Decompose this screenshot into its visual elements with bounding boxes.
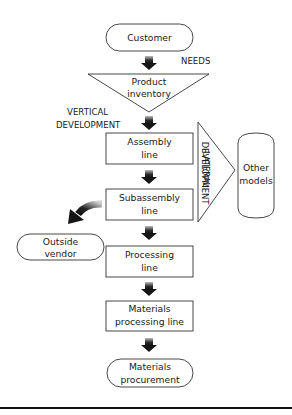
arrow-down-icon [141, 170, 157, 184]
assembly-label-line1: Assembly [106, 136, 193, 147]
product-inventory-label-line2: inventory [110, 88, 188, 99]
processing-label-line1: Processing [106, 249, 193, 260]
bottom-rule [0, 407, 292, 409]
arrow-down-icon [141, 282, 157, 296]
materials-procurement-label-line1: Materials [107, 361, 193, 372]
arrow-down-icon [141, 338, 157, 352]
needs-annotation: NEEDS [181, 56, 210, 67]
subassembly-label-line2: line [106, 205, 193, 216]
product-inventory-label-line1: Product [110, 76, 188, 87]
arrow-down-icon [141, 56, 157, 70]
curved-arrow-icon [68, 204, 102, 224]
materials-procurement-label-line2: procurement [107, 374, 193, 385]
outside-vendor-label-line1: Outside [17, 236, 104, 247]
subassembly-label-line1: Subassembly [106, 192, 193, 203]
customer-label: Customer [106, 32, 193, 43]
other-models-label-line1: Other [238, 162, 274, 173]
processing-label-line2: line [106, 262, 193, 273]
other-models-label-line2: models [238, 175, 274, 186]
outside-vendor-label-line2: vendor [17, 248, 104, 259]
materials-processing-label-line2: processing line [106, 316, 193, 327]
lateral-development-line1: LATERAL [201, 144, 211, 194]
materials-processing-label-line1: Materials [106, 303, 193, 314]
vertical-development-line2: DEVELOPMENT [56, 120, 120, 131]
arrow-down-icon [141, 116, 157, 130]
arrow-down-icon [141, 226, 157, 240]
assembly-label-line2: line [106, 149, 193, 160]
vertical-development-line1: VERTICAL [67, 107, 108, 118]
